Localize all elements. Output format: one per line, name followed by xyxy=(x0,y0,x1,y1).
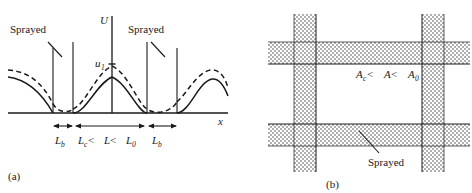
area-ac-base: A xyxy=(355,68,363,80)
u-axis-label: U xyxy=(100,14,109,26)
sprayed-band-vertical-left xyxy=(294,14,316,172)
u1-subscript: 1 xyxy=(101,63,105,72)
panel-a-caption: (a) xyxy=(8,170,21,183)
area-a0-sub: 0 xyxy=(415,74,419,83)
dim-arrowhead-l-center-end xyxy=(139,124,145,129)
sprayed-leader-left xyxy=(48,42,62,57)
sprayed-label-panel-b: Sprayed xyxy=(368,156,405,168)
dim-l0-sub: 0 xyxy=(132,140,136,149)
dim-arrowhead-lb-right-start xyxy=(148,124,154,129)
area-inequality-label: A c < A < A 0 xyxy=(355,68,419,83)
sprayed-label-right: Sprayed xyxy=(128,23,165,35)
figure-two-panel-sprayed-beam: Sprayed Sprayed U x u 1 L b xyxy=(0,0,472,193)
sprayed-band-vertical-right xyxy=(422,14,444,172)
area-op-2: < xyxy=(391,68,397,80)
sprayed-leader-right xyxy=(151,42,165,57)
dim-arrowhead-lb-right-end xyxy=(171,124,177,129)
dim-arrowhead-l-center-start xyxy=(75,124,81,129)
area-a0-base: A xyxy=(407,68,415,80)
figure-svg: Sprayed Sprayed U x u 1 L b xyxy=(0,0,472,193)
dim-op-1: < xyxy=(88,134,94,146)
panel-b: A c < A < A 0 Sprayed (b) xyxy=(268,14,470,191)
u1-tick-label: u 1 xyxy=(95,57,105,72)
sprayed-band-horizontal-top xyxy=(268,42,470,64)
sprayed-label-left: Sprayed xyxy=(10,23,47,35)
x-axis-label: x xyxy=(217,115,223,127)
dim-op-2: < xyxy=(110,134,116,146)
panel-b-caption: (b) xyxy=(326,178,339,191)
area-a-base: A xyxy=(383,68,391,80)
dimension-arrows xyxy=(53,124,177,129)
dim-arrowhead-lb-left-end xyxy=(67,124,73,129)
solid-curve-right-arch xyxy=(177,79,228,113)
dim-label-lb-left: L b xyxy=(54,134,65,149)
panel-a: Sprayed Sprayed U x u 1 L b xyxy=(8,14,228,183)
area-op-1: < xyxy=(367,68,373,80)
dim-lb-left-sub: b xyxy=(61,140,65,149)
dim-arrowhead-lb-left-start xyxy=(53,124,59,129)
solid-curve-left-partial xyxy=(8,77,53,113)
dim-label-lb-right: L b xyxy=(151,134,162,149)
dim-lb-right-sub: b xyxy=(158,140,162,149)
dim-label-l-center: L c < L < L 0 xyxy=(77,134,136,149)
dashed-curve-left xyxy=(8,70,73,112)
